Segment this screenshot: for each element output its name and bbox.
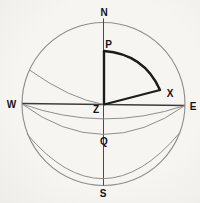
celestial-sphere-figure: N S W E P Z X Q [0, 0, 200, 203]
label-west: W [7, 99, 17, 110]
label-equator-q: Q [100, 136, 108, 147]
label-east: E [190, 101, 197, 112]
scanned-diagram-page: N S W E P Z X Q [0, 0, 200, 203]
edge-to-zenith-arc [30, 70, 105, 105]
label-body-x: X [167, 88, 174, 99]
label-south: S [100, 188, 107, 199]
label-pole: P [105, 39, 112, 50]
triangle-side-zx [104, 90, 160, 105]
triangle-side-px-arc [104, 51, 160, 90]
label-north: N [100, 7, 107, 18]
label-zenith: Z [93, 104, 99, 115]
